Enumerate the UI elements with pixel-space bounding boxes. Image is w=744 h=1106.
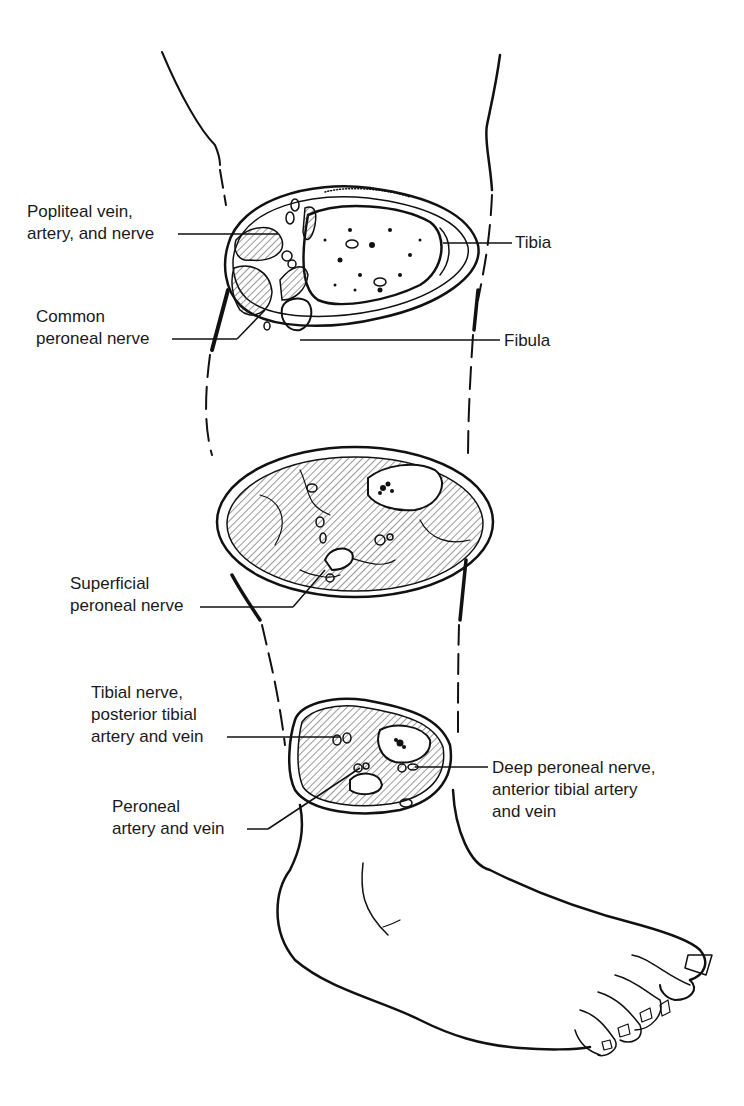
label-peroneal-artery: Peroneal artery and vein — [112, 796, 224, 840]
cross-section-lower — [289, 699, 451, 814]
label-tibial-nerve-line1: Tibial nerve, — [91, 682, 203, 704]
label-peroneal-artery-line1: Peroneal — [112, 796, 224, 818]
label-superficial-peroneal-line2: peroneal nerve — [70, 595, 183, 617]
label-peroneal-artery-line2: artery and vein — [112, 818, 224, 840]
label-deep-peroneal-line3: and vein — [492, 801, 656, 823]
leg-outline-right — [453, 55, 705, 980]
label-popliteal-line2: artery, and nerve — [27, 223, 154, 245]
label-superficial-peroneal-line1: Superficial — [70, 573, 183, 595]
label-fibula-line1: Fibula — [504, 330, 550, 352]
label-superficial-peroneal: Superficial peroneal nerve — [70, 573, 183, 617]
label-common-peroneal-line1: Common — [36, 306, 149, 328]
label-fibula: Fibula — [504, 330, 550, 352]
label-popliteal: Popliteal vein, artery, and nerve — [27, 201, 154, 245]
label-deep-peroneal: Deep peroneal nerve, anterior tibial art… — [492, 757, 656, 823]
label-tibial-nerve-line2: posterior tibial — [91, 704, 203, 726]
label-common-peroneal: Common peroneal nerve — [36, 306, 149, 350]
cross-section-middle — [217, 447, 493, 597]
leg-anatomy-diagram — [0, 0, 744, 1106]
label-deep-peroneal-line1: Deep peroneal nerve, — [492, 757, 656, 779]
label-popliteal-line1: Popliteal vein, — [27, 201, 154, 223]
label-tibia: Tibia — [515, 232, 551, 254]
label-deep-peroneal-line2: anterior tibial artery — [492, 779, 656, 801]
label-tibial-nerve: Tibial nerve, posterior tibial artery an… — [91, 682, 203, 748]
label-tibial-nerve-line3: artery and vein — [91, 726, 203, 748]
cross-section-upper — [225, 186, 478, 330]
label-tibia-line1: Tibia — [515, 232, 551, 254]
label-common-peroneal-line2: peroneal nerve — [36, 328, 149, 350]
